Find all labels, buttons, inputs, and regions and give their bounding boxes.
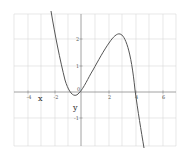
x-tick-label: -4 [27,94,32,100]
tick-marks [28,39,163,118]
y-tick-label: 2 [76,36,79,42]
x-tick-label: -2 [54,94,59,100]
x-tick-labels: -4 -2 0 2 4 6 [27,86,166,100]
origin-label: 0 [77,86,80,92]
y-axis-label: y [72,103,78,112]
y-tick-label: 1 [76,63,79,69]
grid [14,14,176,146]
x-tick-label: 6 [162,94,165,100]
x-tick-label: 2 [108,94,111,100]
x-axis-label: x [38,94,43,103]
function-graph: -4 -2 0 2 4 6 2 1 -1 x y [0,0,187,153]
function-curve [51,11,144,148]
y-tick-label: -1 [74,115,79,121]
